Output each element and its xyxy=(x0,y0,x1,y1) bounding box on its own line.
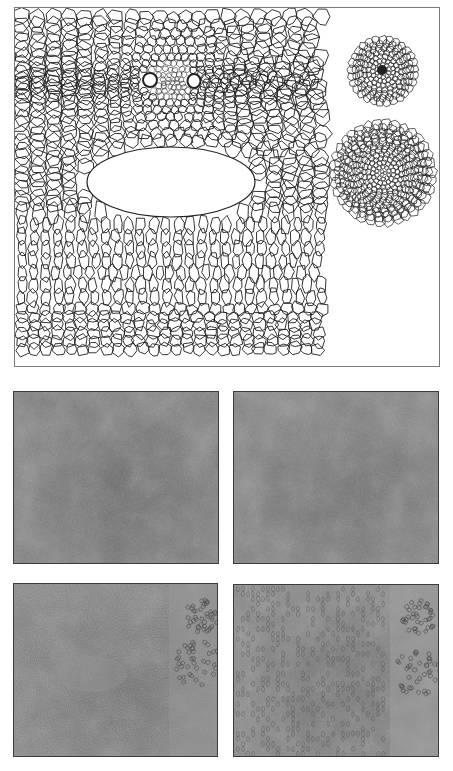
exemplar-figure xyxy=(14,7,440,367)
dark-core xyxy=(377,65,387,75)
large-disc xyxy=(329,119,438,227)
panel-bottom-right xyxy=(233,584,439,757)
left-eye-hole xyxy=(143,73,157,87)
small-disc xyxy=(347,35,419,106)
panel-top-left xyxy=(13,391,219,564)
mouth-hole xyxy=(87,147,255,217)
mouth-region xyxy=(57,656,127,692)
panel-bottom-left xyxy=(13,583,218,757)
right-eye-hole xyxy=(188,74,201,88)
panel-top-right xyxy=(233,391,439,564)
cell-texture-illustration xyxy=(15,8,441,368)
